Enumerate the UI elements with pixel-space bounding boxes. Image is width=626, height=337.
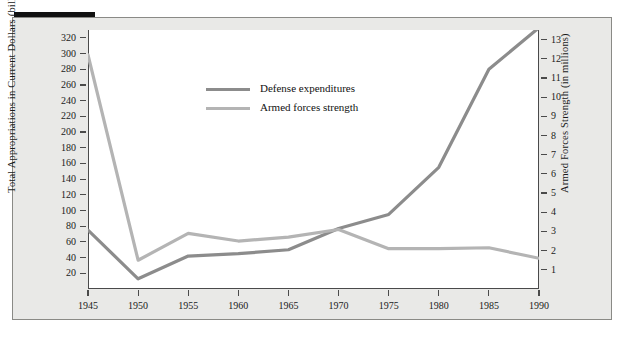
x-axis-tick-mark [238, 290, 239, 296]
x-axis-tick-label: 1980 [417, 301, 461, 311]
x-axis-tick-mark [538, 290, 539, 296]
x-axis-tick-mark [87, 290, 88, 296]
y-axis-left-tick-label: 100 [46, 206, 76, 216]
y-axis-right-tick-mark [541, 135, 547, 136]
y-axis-left-tick-label: 60 [46, 237, 76, 247]
y-axis-left-tick-mark [80, 37, 86, 38]
y-axis-left-tick-mark [80, 273, 86, 274]
y-axis-right-tick-mark [541, 154, 547, 155]
y-axis-left-tick-mark [80, 194, 86, 195]
y-axis-left-tick-mark [80, 69, 86, 70]
x-axis-tick-mark [438, 290, 439, 296]
x-axis-tick-label: 1990 [517, 301, 561, 311]
y-axis-right-tick-label: 6 [551, 169, 575, 179]
x-axis-tick-mark [288, 290, 289, 296]
y-axis-right-tick-mark [541, 269, 547, 270]
y-axis-left-tick-mark [80, 131, 86, 132]
y-axis-left-tick-mark [80, 163, 86, 164]
y-axis-right-tick-mark [541, 77, 547, 78]
x-axis-tick-mark [188, 290, 189, 296]
y-axis-right-tick-label: 10 [551, 92, 575, 102]
x-axis-tick-label: 1955 [166, 301, 210, 311]
y-axis-right-tick-label: 2 [551, 246, 575, 256]
legend-item-defense-expenditures: Defense expenditures [206, 80, 436, 99]
x-axis-tick-label: 1985 [467, 301, 511, 311]
y-axis-left-title: Total Appropriations in Current Dollars … [6, 43, 18, 193]
y-axis-right-tick-label: 5 [551, 188, 575, 198]
y-axis-left-tick-mark [80, 241, 86, 242]
y-axis-left-tick-label: 200 [46, 127, 76, 137]
y-axis-right-tick-label: 1 [551, 265, 575, 275]
y-axis-right-tick-label: 11 [551, 73, 575, 83]
y-axis-right-tick-label: 9 [551, 111, 575, 121]
y-axis-right-tick-mark [541, 192, 547, 193]
x-axis-tick-label: 1960 [216, 301, 260, 311]
y-axis-right-tick-mark [541, 173, 547, 174]
y-axis-right-tick-mark [541, 97, 547, 98]
x-axis-tick-label: 1975 [367, 301, 411, 311]
y-axis-right-tick-label: 7 [551, 150, 575, 160]
x-axis-tick-mark [338, 290, 339, 296]
y-axis-right-tick-mark [541, 231, 547, 232]
y-axis-left-tick-mark [80, 226, 86, 227]
legend-swatch-defense-expenditures [206, 88, 250, 91]
y-axis-right-tick-mark [541, 250, 547, 251]
y-axis-left-tick-label: 140 [46, 174, 76, 184]
x-axis-tick-label: 1965 [266, 301, 310, 311]
y-axis-left-tick-mark [80, 100, 86, 101]
y-axis-left-tick-mark [80, 210, 86, 211]
y-axis-right-tick-label: 13 [551, 35, 575, 45]
chart-figure: Total Appropriations in Current Dollars … [0, 0, 626, 337]
y-axis-left-tick-label: 280 [46, 64, 76, 74]
plot-region: Defense expenditures Armed forces streng… [88, 30, 539, 289]
y-axis-left-tick-mark [80, 179, 86, 180]
y-axis-left-tick-label: 220 [46, 111, 76, 121]
y-axis-left-tick-label: 80 [46, 221, 76, 231]
x-axis-tick-label: 1950 [116, 301, 160, 311]
y-axis-right-tick-mark [541, 39, 547, 40]
y-axis-left-tick-mark [80, 84, 86, 85]
y-axis-left-tick-label: 320 [46, 33, 76, 43]
y-axis-right-tick-label: 8 [551, 131, 575, 141]
y-axis-left-title-text: Total Appropriations in Current Dollars … [6, 0, 17, 193]
legend-label-defense-expenditures: Defense expenditures [260, 80, 355, 97]
y-axis-right-tick-label: 12 [551, 54, 575, 64]
x-axis-tick-label: 1970 [317, 301, 361, 311]
x-axis-tick-mark [138, 290, 139, 296]
line-defense-expenditures [88, 30, 539, 279]
y-axis-left-tick-label: 240 [46, 96, 76, 106]
legend-swatch-armed-forces-strength [206, 107, 250, 110]
y-axis-left-tick-label: 40 [46, 253, 76, 263]
x-axis-tick-label: 1945 [66, 301, 110, 311]
y-axis-left-tick-mark [80, 257, 86, 258]
y-axis-left-tick-mark [80, 147, 86, 148]
x-axis-tick-mark [488, 290, 489, 296]
y-axis-right-tick-mark [541, 58, 547, 59]
y-axis-right-tick-label: 4 [551, 207, 575, 217]
y-axis-left-tick-label: 160 [46, 158, 76, 168]
chart-legend: Defense expenditures Armed forces streng… [206, 80, 436, 118]
y-axis-left-tick-label: 120 [46, 190, 76, 200]
legend-label-armed-forces-strength: Armed forces strength [260, 99, 358, 116]
y-axis-left-tick-mark [80, 116, 86, 117]
x-axis-tick-mark [388, 290, 389, 296]
y-axis-right-tick-mark [541, 116, 547, 117]
y-axis-right-tick-mark [541, 212, 547, 213]
y-axis-right-tick-label: 3 [551, 226, 575, 236]
y-axis-left-tick-mark [80, 53, 86, 54]
series-lines [88, 30, 539, 289]
y-axis-left-tick-label: 20 [46, 268, 76, 278]
legend-item-armed-forces-strength: Armed forces strength [206, 99, 436, 118]
y-axis-left-tick-label: 300 [46, 49, 76, 59]
y-axis-left-tick-label: 260 [46, 80, 76, 90]
y-axis-left-tick-label: 180 [46, 143, 76, 153]
